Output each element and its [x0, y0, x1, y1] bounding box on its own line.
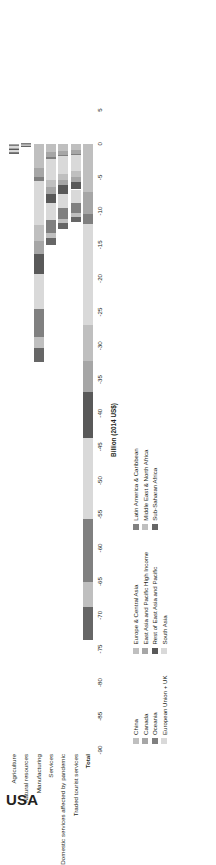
bar-row: Services: [46, 110, 56, 750]
bar-segment: [58, 144, 68, 151]
legend-swatch-icon: [133, 648, 139, 654]
category-label: Manufacturing: [34, 754, 44, 793]
bar-segment: [46, 194, 56, 203]
value-axis-tick: -60: [96, 543, 103, 552]
bar-segment: [58, 208, 68, 219]
bar-segment: [9, 154, 19, 155]
legend-label: Oceania: [151, 712, 158, 735]
legend-swatch-icon: [142, 738, 148, 744]
bar-row: Domestic services affected by pandemic: [58, 110, 68, 750]
legend-item: East Asia and Pacific High Income: [142, 552, 149, 654]
bar-segment: [46, 144, 56, 153]
bar-segment: [58, 185, 68, 193]
bar-segment: [58, 156, 68, 174]
value-axis-tick: -30: [96, 341, 103, 350]
bar-segment: [34, 309, 44, 337]
bar-segment: [71, 190, 81, 203]
legend-item: China: [132, 676, 139, 744]
bar-segment: [83, 325, 93, 361]
value-axis-tick: 0: [96, 142, 103, 145]
legend-item: South Asia: [161, 552, 168, 654]
legend-label: Sub-Saharan Africa: [151, 468, 158, 521]
legend-column: Europe & Central AsiaEast Asia and Pacif…: [132, 552, 168, 654]
legend-label: Latin America & Caribbean: [132, 448, 139, 521]
legend-swatch-icon: [133, 738, 139, 744]
bar-row: Manufacturing: [34, 110, 44, 750]
bar-segment: [83, 582, 93, 607]
legend-item: Latin America & Caribbean: [132, 448, 139, 530]
legend-swatch-icon: [152, 524, 158, 530]
bar-segment: [83, 519, 93, 582]
value-axis-tick: 5: [96, 108, 103, 111]
value-axis-tick: -20: [96, 274, 103, 283]
value-axis-tick: -50: [96, 476, 103, 485]
legend-item: Sub-Saharan Africa: [151, 448, 158, 530]
legend-swatch-icon: [142, 524, 148, 530]
value-axis-tick: -80: [96, 678, 103, 687]
legend-column: Latin America & CaribbeanMiddle East & N…: [132, 448, 158, 530]
legend-label: Middle East & North Africa: [142, 450, 149, 521]
bar-segment: [83, 192, 93, 214]
category-label: Services: [46, 754, 56, 778]
bar-segment: [71, 182, 81, 189]
value-axis-tick: -90: [96, 746, 103, 755]
value-axis-tick: -15: [96, 240, 103, 249]
bar-row: Total: [83, 110, 93, 750]
bar-row: Natural resources: [21, 110, 31, 750]
legend-label: Canada: [142, 714, 149, 735]
legend-swatch-icon: [152, 648, 158, 654]
value-axis-tick: -75: [96, 644, 103, 653]
category-label: Domestic services affected by pandemic: [58, 754, 68, 865]
value-axis-tick: -85: [96, 712, 103, 721]
legend-swatch-icon: [142, 648, 148, 654]
plot-area: AgricultureNatural resourcesManufacturin…: [8, 110, 94, 750]
category-label: Agriculture: [9, 754, 19, 784]
bar-segment: [46, 180, 56, 187]
bar-segment: [46, 159, 56, 180]
bar-segment: [46, 238, 56, 245]
bar-segment: [34, 337, 44, 348]
category-label: Traded tourist services: [71, 754, 81, 816]
bar-segment: [83, 438, 93, 519]
bar-segment: [46, 220, 56, 233]
category-label: Total: [83, 754, 93, 768]
value-axis-tick: -40: [96, 409, 103, 418]
legend-swatch-icon: [133, 524, 139, 530]
bar-segment: [34, 144, 44, 168]
bar-segment: [83, 361, 93, 392]
bar-segment: [34, 274, 44, 309]
bar-segment: [34, 241, 44, 254]
bar-segment: [34, 225, 44, 240]
value-axis-tick: -5: [96, 175, 103, 181]
legend-label: European Union + UK: [161, 676, 168, 735]
value-axis-tick: -35: [96, 375, 103, 384]
legend-item: Oceania: [151, 676, 158, 744]
value-axis-tick: -25: [96, 308, 103, 317]
bar-segment: [83, 214, 93, 223]
legend-item: European Union + UK: [161, 676, 168, 744]
legend-label: South Asia: [161, 615, 168, 644]
bar-segment: [83, 224, 93, 325]
chart-legend: ChinaCanadaOceaniaEuropean Union + UKEur…: [132, 448, 168, 744]
bar-segment: [34, 181, 44, 225]
bar-segment: [83, 392, 93, 438]
value-axis-tick: -65: [96, 577, 103, 586]
legend-label: Europe & Central Asia: [132, 585, 139, 645]
legend-swatch-icon: [161, 648, 167, 654]
bar-segment: [83, 607, 93, 640]
bar-segment: [34, 348, 44, 362]
legend-column: ChinaCanadaOceaniaEuropean Union + UK: [132, 676, 168, 744]
bar-segment: [58, 194, 68, 208]
legend-swatch-icon: [161, 738, 167, 744]
value-axis-tick: -70: [96, 611, 103, 620]
value-axis-tick: -45: [96, 442, 103, 451]
legend-label: East Asia and Pacific High Income: [142, 552, 149, 645]
bar-row: Agriculture: [9, 110, 19, 750]
bar-segment: [71, 203, 81, 213]
bar-row: Traded tourist services: [71, 110, 81, 750]
bar-segment: [34, 254, 44, 274]
bar-segment: [71, 155, 81, 171]
legend-swatch-icon: [152, 738, 158, 744]
